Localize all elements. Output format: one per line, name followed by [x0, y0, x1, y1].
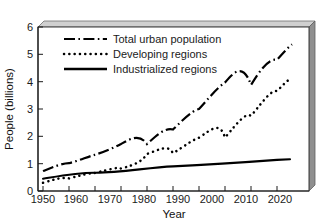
y-tick-label-3: 3 [27, 103, 33, 115]
x-tick-label-2000: 2000 [200, 193, 224, 205]
x-tick-label-2020: 2020 [268, 193, 292, 205]
legend-label-developing-regions: Developing regions [113, 48, 208, 60]
x-tick-label-1990: 1990 [166, 193, 190, 205]
y-tick-label-2: 2 [27, 130, 33, 142]
y-tick-label-1: 1 [27, 158, 33, 170]
legend-label-industrialized-regions: Industrialized regions [113, 63, 217, 75]
x-tick-label-1960: 1960 [64, 193, 88, 205]
x-axis-title: Year [162, 208, 185, 220]
frame-bevel-right [309, 21, 315, 191]
x-tick-label-1980: 1980 [132, 193, 156, 205]
y-tick-label-5: 5 [27, 48, 33, 60]
population-growth-line-chart: 0 1 2 3 4 5 6 1950 1960 1970 1980 1990 2… [0, 0, 335, 224]
frame-bevel-top [38, 21, 315, 27]
y-axis-title: People (billions) [3, 68, 15, 150]
y-tick-label-6: 6 [27, 21, 33, 33]
chart-figure: 0 1 2 3 4 5 6 1950 1960 1970 1980 1990 2… [0, 0, 335, 224]
x-tick-label-1970: 1970 [98, 193, 122, 205]
x-tick-label-1950: 1950 [31, 193, 55, 205]
x-tick-label-2010: 2010 [234, 193, 258, 205]
legend-label-total-urban-population: Total urban population [113, 33, 221, 45]
y-tick-label-4: 4 [27, 76, 33, 88]
